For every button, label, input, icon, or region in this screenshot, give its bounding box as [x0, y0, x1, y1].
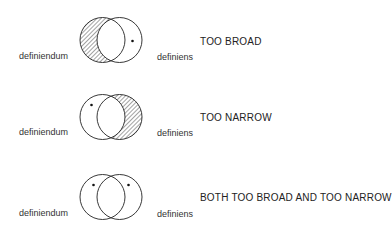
verdict-label: TOO NARROW: [200, 112, 272, 123]
definiens-label: definiens: [157, 209, 193, 219]
verdict-label: BOTH TOO BROAD AND TOO NARROW: [200, 192, 392, 203]
dot-marker: [131, 40, 134, 43]
venn-both: [80, 175, 142, 220]
definiens-circle: [97, 175, 142, 220]
definiens-label: definiens: [157, 52, 193, 62]
venn-too-narrow: [80, 95, 142, 140]
definiendum-label: definiendum: [19, 51, 68, 61]
definiens-label: definiens: [157, 128, 193, 138]
dot-marker: [90, 104, 93, 107]
venn-too-broad: [80, 18, 142, 63]
definiendum-label: definiendum: [19, 127, 68, 137]
verdict-label: TOO BROAD: [200, 36, 262, 47]
dot-marker: [92, 184, 95, 187]
dot-marker: [127, 184, 130, 187]
definiendum-label: definiendum: [19, 208, 68, 218]
definiendum-circle: [80, 175, 125, 220]
